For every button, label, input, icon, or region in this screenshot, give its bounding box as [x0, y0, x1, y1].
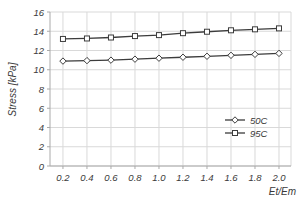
x-tick-label: 2.0: [271, 172, 286, 183]
series-marker-95C: [108, 35, 113, 40]
series-marker-95C: [228, 28, 233, 33]
y-tick-label: 10: [33, 64, 44, 75]
series-marker-50C: [276, 50, 282, 56]
series-marker-50C: [252, 51, 258, 57]
series-marker-50C: [204, 53, 210, 59]
series-marker-95C: [204, 29, 209, 34]
series-marker-50C: [228, 52, 234, 58]
y-tick-label: 4: [39, 122, 44, 133]
series-marker-50C: [180, 54, 186, 60]
y-tick-label: 14: [33, 26, 44, 37]
chart-plot-area: 02468101214160.20.40.60.81.01.21.41.61.8…: [0, 0, 308, 205]
y-tick-label: 12: [33, 45, 44, 56]
x-tick-label: 1.4: [200, 172, 213, 183]
legend-label-95C: 95C: [250, 128, 268, 139]
x-axis-title: Et/Em: [269, 186, 296, 197]
series-marker-95C: [84, 36, 89, 41]
y-axis-title: Stress [kPa]: [7, 48, 18, 132]
y-tick-label: 2: [38, 141, 45, 152]
series-marker-95C: [180, 31, 185, 36]
series-marker-95C: [132, 34, 137, 39]
series-marker-50C: [156, 55, 162, 61]
x-tick-label: 1.8: [248, 172, 262, 183]
series-marker-50C: [132, 56, 138, 62]
legend-swatch-marker-50C: [232, 117, 238, 123]
x-tick-label: 1.0: [152, 172, 166, 183]
y-tick-label: 0: [39, 161, 45, 172]
chart-figure: 02468101214160.20.40.60.81.01.21.41.61.8…: [0, 0, 308, 205]
series-marker-95C: [252, 27, 257, 32]
series-line-95C: [63, 28, 279, 39]
series-marker-50C: [60, 58, 66, 64]
x-tick-label: 0.2: [56, 172, 70, 183]
series-line-50C: [63, 53, 279, 61]
x-tick-label: 0.4: [80, 172, 93, 183]
x-tick-label: 0.8: [128, 172, 142, 183]
series-marker-50C: [84, 57, 90, 63]
x-tick-label: 1.6: [224, 172, 238, 183]
legend-swatch-marker-95C: [233, 131, 238, 136]
x-tick-label: 1.2: [176, 172, 190, 183]
series-marker-95C: [156, 33, 161, 38]
x-tick-label: 0.6: [104, 172, 118, 183]
series-marker-95C: [276, 26, 281, 31]
y-tick-label: 16: [33, 7, 44, 18]
y-tick-label: 6: [39, 103, 45, 114]
series-marker-95C: [60, 36, 65, 41]
series-marker-50C: [108, 57, 114, 63]
y-tick-label: 8: [39, 84, 45, 95]
legend-label-50C: 50C: [250, 115, 268, 126]
